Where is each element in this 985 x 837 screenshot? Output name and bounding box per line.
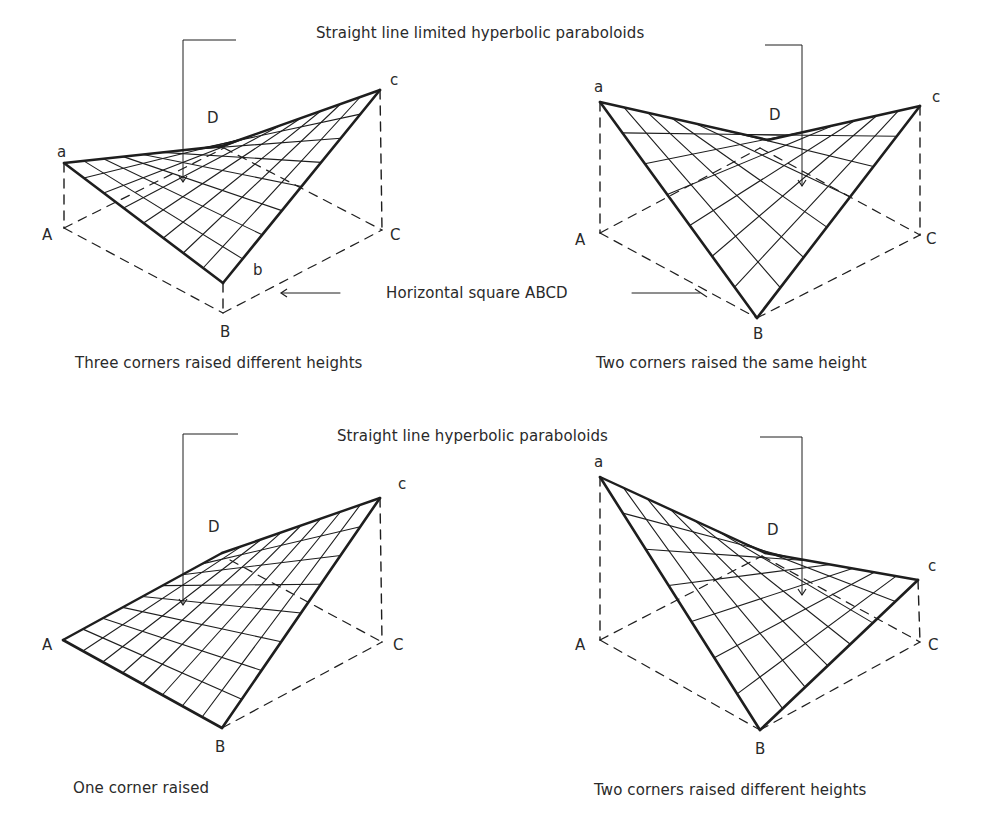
caption-three-corners: Three corners raised different heights: [75, 354, 363, 372]
p3-grid-line: [202, 505, 360, 717]
p3-label-D: D: [208, 518, 220, 536]
p1-edge-ab: [64, 163, 223, 283]
p2-grid-line: [690, 121, 855, 226]
p2-label-c: c: [932, 88, 940, 106]
label-horizontal-square: Horizontal square ABCD: [386, 284, 568, 302]
heading-straight-line-limited: Straight line limited hyperbolic parabol…: [316, 24, 644, 42]
p2-label-B: B: [753, 325, 763, 343]
p3-grid-line: [162, 584, 320, 585]
p1-vertical-c: [380, 90, 382, 230]
p3-edge-bc: [222, 498, 380, 728]
p4-label-C: C: [928, 636, 938, 654]
p2-grid-line: [744, 135, 897, 137]
p2-label-A: A: [575, 231, 585, 249]
p4-label-c: c: [928, 557, 936, 575]
p3-label-c: c: [398, 475, 406, 493]
p1-ground-DC: [224, 148, 382, 230]
p4-grid-line: [718, 531, 873, 623]
p4-grid-line: [671, 510, 828, 666]
p4-ground-AD: [600, 556, 762, 640]
p1-label-a: a: [57, 143, 66, 161]
hyperbolic-paraboloid-drawings: [0, 0, 985, 837]
p1-label-A: A: [42, 226, 52, 244]
heading-straight-line: Straight line hyperbolic paraboloids: [337, 427, 608, 445]
p3-edge-dc: [222, 498, 380, 553]
p2-edge-ad: [600, 102, 768, 140]
p4-label-B: B: [755, 740, 765, 758]
p2-ground-BC: [757, 235, 920, 318]
p3-grid-line: [143, 597, 302, 614]
p4-grid-line: [647, 499, 805, 687]
p4-grid-line: [669, 565, 831, 586]
p3-label-C: C: [393, 636, 403, 654]
p2-ground-AD: [600, 148, 760, 233]
p3-grid-line: [182, 512, 340, 706]
caption-one-corner: One corner raised: [73, 779, 209, 797]
p1-grid-line: [203, 97, 360, 268]
p4-edge-dc: [765, 553, 918, 580]
p4-ground-AB: [600, 640, 760, 730]
p4-grid-line: [624, 488, 783, 709]
p2-label-D: D: [769, 106, 781, 124]
p3-ground-BC: [222, 642, 382, 728]
p2-grid-line: [712, 116, 876, 257]
p1-ground-BC: [223, 230, 382, 313]
p1-label-B: B: [220, 323, 230, 341]
p1-label-b: b: [253, 261, 263, 279]
p3-edge-ad: [63, 553, 222, 640]
p1-ground-AB: [64, 228, 223, 313]
p1-label-c: c: [390, 71, 398, 89]
caption-two-same: Two corners raised the same height: [596, 354, 867, 372]
p4-grid-line: [691, 568, 852, 621]
p2-label-C: C: [926, 230, 936, 248]
p4-label-A: A: [575, 636, 585, 654]
p4-label-D: D: [767, 521, 779, 539]
p4-vertical-c: [918, 580, 920, 642]
p4-label-a: a: [594, 453, 603, 471]
p3-grid-line: [182, 556, 340, 575]
diagram-stage: Straight line limited hyperbolic parabol…: [0, 0, 985, 837]
p3-ground-DC: [230, 560, 382, 642]
p3-vertical-c: [380, 498, 382, 642]
p3-label-A: A: [42, 636, 52, 654]
p2-ground-AB: [600, 233, 757, 318]
p1-label-C: C: [390, 226, 400, 244]
p2-label-a: a: [594, 78, 603, 96]
caption-two-different: Two corners raised different heights: [594, 781, 867, 799]
p1-label-D: D: [207, 109, 219, 127]
p3-label-B: B: [215, 738, 225, 756]
p3-edge-ab: [63, 640, 222, 728]
